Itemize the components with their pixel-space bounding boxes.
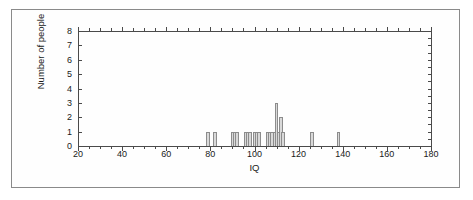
x-axis-minor-tick [277,28,278,31]
x-axis-minor-tick [133,28,134,31]
histogram-bar [310,132,314,146]
x-axis-tick-label: 80 [190,149,230,160]
y-axis-tick-label: 4 [58,84,72,94]
x-axis-minor-tick [199,28,200,31]
x-axis-minor-tick [409,146,410,149]
x-axis-major-tick [122,27,123,31]
x-axis-tick-label: 140 [323,149,363,160]
y-axis-tick [78,103,82,104]
x-axis-major-tick [343,27,344,31]
y-axis-tick-label: 0 [58,141,72,151]
x-axis-major-tick [210,27,211,31]
x-axis-tick-label: 40 [102,149,142,160]
x-axis-minor-tick [354,28,355,31]
x-axis-tick-label: 60 [146,149,186,160]
x-axis-tick-label: 100 [235,149,275,160]
y-axis-tick [428,45,431,46]
x-axis-major-tick [431,27,432,31]
x-axis-minor-tick [277,146,278,149]
histogram-bar [206,132,210,146]
y-axis-tick [78,74,82,75]
y-axis-tick [78,132,82,133]
y-axis-tick-label: 8 [58,26,72,36]
y-axis-tick-label: 5 [58,69,72,79]
y-axis-tick-label: 7 [58,40,72,50]
x-axis-minor-tick [232,28,233,31]
x-axis-major-tick [299,27,300,31]
x-axis-minor-tick [321,28,322,31]
y-axis-title: Number of people [35,2,46,102]
x-axis-minor-tick [321,146,322,149]
y-axis-minor-tick [428,67,431,68]
x-axis-minor-tick [266,28,267,31]
x-axis-minor-tick [188,146,189,149]
y-axis-tick [78,89,82,90]
y-axis-tick [428,103,431,104]
y-axis-tick [428,31,431,32]
histogram-bar [257,132,261,146]
x-axis-minor-tick [144,146,145,149]
y-axis-tick-label: 6 [58,55,72,65]
x-axis-minor-tick [188,28,189,31]
x-axis-tick-label: 120 [279,149,319,160]
plot-area [78,31,431,146]
x-axis-minor-tick [420,28,421,31]
y-axis-tick [78,117,82,118]
x-axis-minor-tick [365,146,366,149]
y-axis-minor-tick [428,139,431,140]
x-axis-minor-tick [332,28,333,31]
x-axis-minor-tick [232,146,233,149]
y-axis-tick [428,132,431,133]
y-axis-tick [78,60,82,61]
axis-line-right [431,31,432,146]
x-axis-major-tick [166,27,167,31]
x-axis-minor-tick [89,28,90,31]
x-axis-minor-tick [409,28,410,31]
x-axis-title: IQ [78,162,431,173]
y-axis-minor-tick [428,53,431,54]
histogram-bar [281,132,285,146]
x-axis-minor-tick [177,28,178,31]
y-axis-tick-label: 1 [58,127,72,137]
x-axis-minor-tick [365,28,366,31]
x-axis-minor-tick [144,28,145,31]
y-axis-tick [428,60,431,61]
x-axis-minor-tick [376,28,377,31]
y-axis-tick [428,146,431,147]
x-axis-minor-tick [100,146,101,149]
y-axis-tick [428,117,431,118]
x-axis-minor-tick [100,28,101,31]
x-axis-minor-tick [310,28,311,31]
x-axis-minor-tick [243,28,244,31]
figure-frame: 20406080100120140160180 012345678 IQ Num… [11,9,460,188]
y-axis-minor-tick [428,38,431,39]
x-axis-major-tick [387,27,388,31]
y-axis-minor-tick [428,110,431,111]
y-axis-minor-tick [428,124,431,125]
x-axis-tick-label: 160 [367,149,407,160]
histogram-bar [248,132,252,146]
x-axis-minor-tick [111,28,112,31]
x-axis-minor-tick [288,28,289,31]
x-axis-minor-tick [221,28,222,31]
y-axis-tick [78,146,82,147]
histogram-bar [337,132,341,146]
x-axis-tick-label: 180 [411,149,451,160]
y-axis-minor-tick [428,81,431,82]
y-axis-tick [78,45,82,46]
x-axis-minor-tick [398,28,399,31]
x-axis-major-tick [255,27,256,31]
x-axis-minor-tick [155,28,156,31]
y-axis-tick [78,31,82,32]
y-axis-tick-label: 2 [58,112,72,122]
histogram-bar [235,132,239,146]
histogram-bar [213,132,217,146]
y-axis-tick [428,74,431,75]
y-axis-tick-label: 3 [58,98,72,108]
y-axis-tick [428,89,431,90]
y-axis-minor-tick [428,96,431,97]
